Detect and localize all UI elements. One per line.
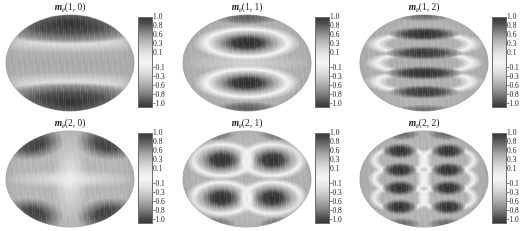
panel-symbol: m bbox=[409, 2, 416, 12]
colorbar-tick: 1.0 bbox=[330, 13, 339, 21]
colorbar-tick: 0.3 bbox=[330, 156, 339, 164]
limb-shading bbox=[360, 15, 488, 111]
colorbar-tick: -0.1 bbox=[330, 64, 342, 72]
colorbar-tick: 1.0 bbox=[153, 13, 162, 21]
colorbar-ticks: 1.0 0.8 0.6 0.3 0.1 -0.1 -0.3 -0.6 -0.8 … bbox=[507, 129, 530, 226]
panel-symbol: m bbox=[55, 118, 62, 128]
panel-m-theta-1-1: mθ(1, 1) 1.0 0.8 0.6 0.3 0.1 -0.1 -0.3 -… bbox=[177, 0, 353, 115]
limb-shading bbox=[183, 15, 311, 111]
map-ellipse bbox=[183, 15, 311, 111]
colorbar bbox=[315, 133, 330, 224]
limb-shading bbox=[183, 131, 311, 227]
panel-title: mθ(2, 0) bbox=[0, 118, 140, 132]
colorbar bbox=[492, 133, 507, 224]
map-ellipse bbox=[360, 15, 488, 111]
map-ellipse bbox=[6, 131, 134, 227]
colorbar-tick: 0.8 bbox=[153, 22, 162, 30]
panel-m-theta-1-0: mθ(1, 0) 1.0 0.8 0.6 0.3 0.1 -0.1 -0.3 -… bbox=[0, 0, 176, 115]
colorbar-tick: -1.0 bbox=[330, 216, 342, 224]
colorbar-tick: 0.1 bbox=[507, 49, 516, 57]
colorbar-tick: -0.8 bbox=[330, 91, 342, 99]
panel-m-theta-2-2: mθ(2, 2) 1.0 0.8 0.6 0.3 0.1 -0.1 -0.3 -… bbox=[354, 116, 530, 231]
colorbar-tick: 0.3 bbox=[507, 156, 516, 164]
limb-shading bbox=[360, 131, 488, 227]
colorbar-tick: 0.3 bbox=[153, 40, 162, 48]
colorbar bbox=[138, 17, 153, 108]
limb-shading bbox=[6, 131, 134, 227]
colorbar-tick: 0.6 bbox=[153, 147, 162, 155]
colorbar-tick: -0.6 bbox=[153, 82, 165, 90]
panel-title: mθ(2, 1) bbox=[177, 118, 317, 132]
colorbar-tick: 0.6 bbox=[330, 147, 339, 155]
panel-args: (2, 1) bbox=[242, 118, 263, 128]
colorbar-tick: -0.6 bbox=[330, 198, 342, 206]
colorbar-tick: 0.8 bbox=[507, 22, 516, 30]
colorbar-tick: 0.1 bbox=[330, 165, 339, 173]
colorbar-tick: -1.0 bbox=[153, 100, 165, 108]
panel-symbol: m bbox=[55, 2, 62, 12]
colorbar-tick: -0.1 bbox=[330, 180, 342, 188]
panel-symbol: m bbox=[409, 118, 416, 128]
colorbar-tick: 1.0 bbox=[153, 129, 162, 137]
colorbar-tick: -0.3 bbox=[153, 73, 165, 81]
colorbar-tick: -1.0 bbox=[330, 100, 342, 108]
mode-pattern-figure: mθ(1, 0) 1.0 0.8 0.6 0.3 0.1 -0.1 -0.3 -… bbox=[0, 0, 530, 231]
colorbar-tick: -1.0 bbox=[507, 216, 519, 224]
colorbar-tick: 1.0 bbox=[507, 129, 516, 137]
colorbar-tick: -0.6 bbox=[153, 198, 165, 206]
colorbar-tick: -0.8 bbox=[507, 91, 519, 99]
colorbar-tick: -0.6 bbox=[507, 82, 519, 90]
map-wrap bbox=[183, 131, 311, 227]
panel-args: (1, 1) bbox=[242, 2, 263, 12]
map-wrap bbox=[6, 131, 134, 227]
colorbar-tick: 0.1 bbox=[153, 165, 162, 173]
panel-m-theta-2-0: mθ(2, 0) 1.0 0.8 0.6 0.3 0.1 -0.1 -0.3 -… bbox=[0, 116, 176, 231]
panel-symbol: m bbox=[232, 118, 239, 128]
map-ellipse bbox=[360, 131, 488, 227]
colorbar-tick: -0.8 bbox=[330, 207, 342, 215]
panel-symbol: m bbox=[232, 2, 239, 12]
colorbar-ticks: 1.0 0.8 0.6 0.3 0.1 -0.1 -0.3 -0.6 -0.8 … bbox=[153, 129, 177, 226]
colorbar-tick: -0.1 bbox=[507, 64, 519, 72]
panel-title: mθ(1, 0) bbox=[0, 2, 140, 16]
colorbar-tick: -0.8 bbox=[507, 207, 519, 215]
panel-title: mθ(1, 1) bbox=[177, 2, 317, 16]
panel-args: (1, 0) bbox=[65, 2, 86, 12]
panel-m-theta-2-1: mθ(2, 1) 1.0 0.8 0.6 0.3 0.1 -0.1 -0.3 -… bbox=[177, 116, 353, 231]
colorbar-tick: -0.6 bbox=[507, 198, 519, 206]
colorbar-tick: 0.3 bbox=[153, 156, 162, 164]
colorbar-tick: -0.1 bbox=[153, 180, 165, 188]
colorbar-tick: 1.0 bbox=[330, 129, 339, 137]
colorbar-tick: 0.1 bbox=[330, 49, 339, 57]
colorbar bbox=[138, 133, 153, 224]
panel-args: (1, 2) bbox=[419, 2, 440, 12]
colorbar-tick: 0.6 bbox=[330, 31, 339, 39]
panel-args: (2, 0) bbox=[65, 118, 86, 128]
colorbar-tick: 0.6 bbox=[507, 31, 516, 39]
panel-args: (2, 2) bbox=[419, 118, 440, 128]
colorbar-ticks: 1.0 0.8 0.6 0.3 0.1 -0.1 -0.3 -0.6 -0.8 … bbox=[153, 13, 177, 110]
map-ellipse bbox=[183, 131, 311, 227]
panel-title: mθ(1, 2) bbox=[354, 2, 494, 16]
colorbar-tick: -0.3 bbox=[507, 189, 519, 197]
limb-shading bbox=[6, 15, 134, 111]
colorbar-tick: 0.8 bbox=[330, 22, 339, 30]
colorbar bbox=[315, 17, 330, 108]
panel-title: mθ(2, 2) bbox=[354, 118, 494, 132]
colorbar-tick: -0.1 bbox=[507, 180, 519, 188]
colorbar-tick: 0.1 bbox=[153, 49, 162, 57]
map-wrap bbox=[360, 131, 488, 227]
colorbar-tick: -0.6 bbox=[330, 82, 342, 90]
colorbar-tick: -0.3 bbox=[330, 73, 342, 81]
map-wrap bbox=[360, 15, 488, 111]
map-ellipse bbox=[6, 15, 134, 111]
colorbar bbox=[492, 17, 507, 108]
panel-m-theta-1-2: mθ(1, 2) 1.0 0.8 0.6 0.3 0.1 -0.1 -0.3 -… bbox=[354, 0, 530, 115]
colorbar-tick: -1.0 bbox=[153, 216, 165, 224]
colorbar-ticks: 1.0 0.8 0.6 0.3 0.1 -0.1 -0.3 -0.6 -0.8 … bbox=[507, 13, 530, 110]
map-wrap bbox=[183, 15, 311, 111]
colorbar-tick: 0.3 bbox=[330, 40, 339, 48]
colorbar-tick: -0.3 bbox=[330, 189, 342, 197]
colorbar-tick: -0.3 bbox=[153, 189, 165, 197]
colorbar-ticks: 1.0 0.8 0.6 0.3 0.1 -0.1 -0.3 -0.6 -0.8 … bbox=[330, 129, 354, 226]
